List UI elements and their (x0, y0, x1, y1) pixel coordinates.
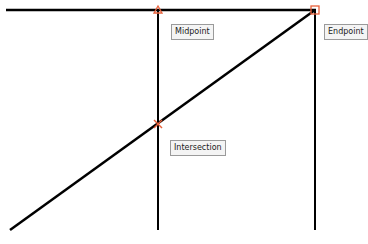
diagonal-line[interactable] (10, 10, 315, 230)
midpoint-tooltip: Midpoint (171, 24, 214, 40)
intersection-tooltip: Intersection (170, 140, 226, 156)
endpoint-tooltip: Endpoint (324, 24, 368, 40)
